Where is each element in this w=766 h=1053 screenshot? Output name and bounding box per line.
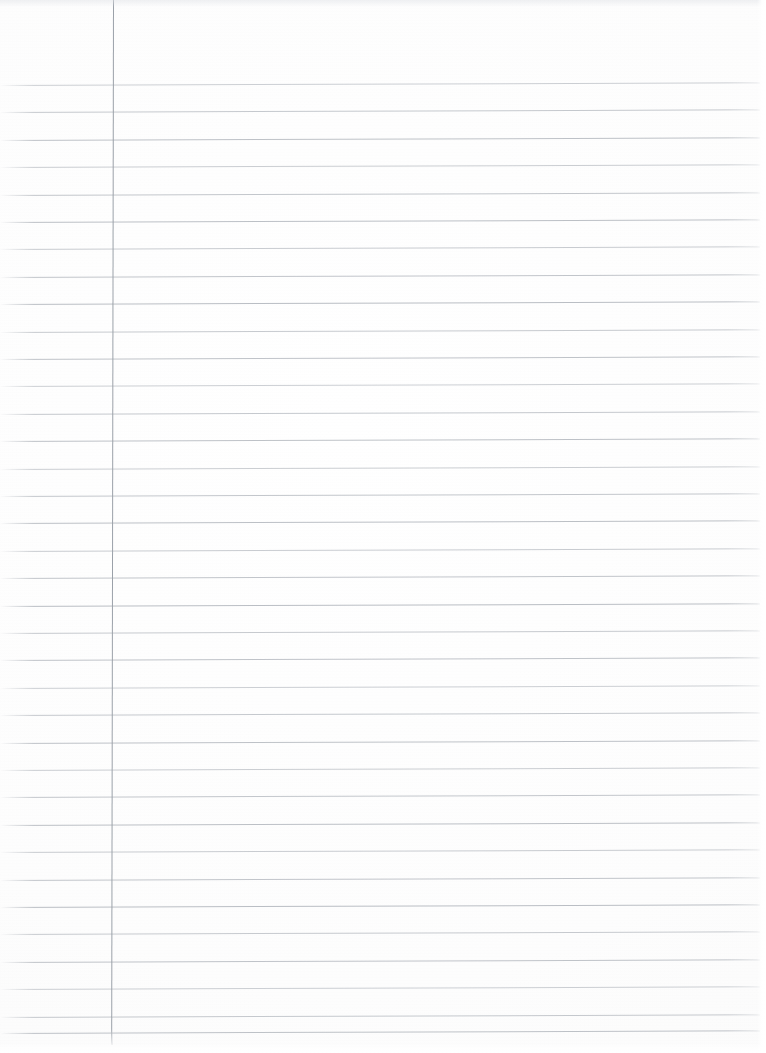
- ruled-line: [0, 795, 760, 799]
- ruled-line: [0, 987, 760, 991]
- ruled-line: [0, 192, 760, 196]
- ruled-line: [0, 548, 760, 552]
- ruled-line: [0, 904, 760, 908]
- ruled-line: [0, 165, 760, 169]
- notebook-page: [0, 0, 766, 1053]
- ruled-line: [0, 521, 760, 525]
- ruled-line: [0, 658, 760, 662]
- ruled-line: [0, 329, 760, 333]
- ruled-lines-group: [0, 0, 766, 1053]
- ruled-line: [0, 247, 760, 251]
- ruled-line: [0, 822, 760, 826]
- ruled-line: [0, 493, 760, 497]
- ruled-line: [0, 110, 760, 114]
- ruled-line: [0, 384, 760, 388]
- ruled-line: [0, 439, 760, 443]
- ruled-line: [0, 877, 760, 881]
- ruled-line: [0, 850, 760, 854]
- ruled-line: [0, 959, 760, 963]
- ruled-line: [0, 713, 760, 717]
- ruled-line: [0, 466, 760, 470]
- ruled-line: [0, 137, 760, 141]
- ruled-line: [0, 740, 760, 744]
- ruled-line: [0, 1014, 760, 1018]
- ruled-line: [0, 219, 760, 223]
- ruled-line: [0, 932, 760, 936]
- ruled-line: [0, 685, 760, 689]
- ruled-line: [0, 767, 760, 771]
- ruled-line: [0, 302, 760, 306]
- ruled-line: [0, 1030, 760, 1034]
- ruled-line: [0, 82, 760, 86]
- ruled-line: [0, 411, 760, 415]
- ruled-line: [0, 356, 760, 360]
- ruled-line: [0, 274, 760, 278]
- ruled-line: [0, 630, 760, 634]
- ruled-line: [0, 603, 760, 607]
- ruled-line: [0, 576, 760, 580]
